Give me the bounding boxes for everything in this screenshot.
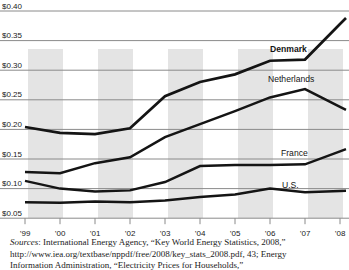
series-label-denmark: Denmark [270,44,307,54]
source-line-1: Sources: International Energy Agency, “K… [10,237,349,249]
y-axis-label: $0.40 [2,2,23,11]
source-citation: Sources: International Energy Agency, “K… [10,237,349,270]
y-axis-label: $0.15 [2,150,23,159]
series-label-france: France [281,148,308,158]
source-line-1-text: : International Energy Agency, “Key Worl… [38,237,285,247]
y-axis-label: $0.35 [2,31,23,40]
chart-figure: $0.40$0.35$0.30$0.25$0.20$0.15$0.10$0.05… [0,0,349,270]
y-axis-label: $0.20 [2,120,23,129]
y-axis-label: $0.10 [2,179,23,188]
line-chart: $0.40$0.35$0.30$0.25$0.20$0.15$0.10$0.05… [0,0,349,270]
y-axis-label: $0.25 [2,90,23,99]
series-label-us: U.S. [282,180,299,190]
sources-word: Sources [10,237,38,247]
series-label-netherlands: Netherlands [268,74,314,84]
y-axis-label: $0.30 [2,61,23,70]
source-line-3: Information Administration, “Electricity… [10,260,349,270]
y-axis-label: $0.05 [2,209,23,218]
source-line-2: http://www.iea.org/textbase/nppdf/free/2… [10,249,349,261]
